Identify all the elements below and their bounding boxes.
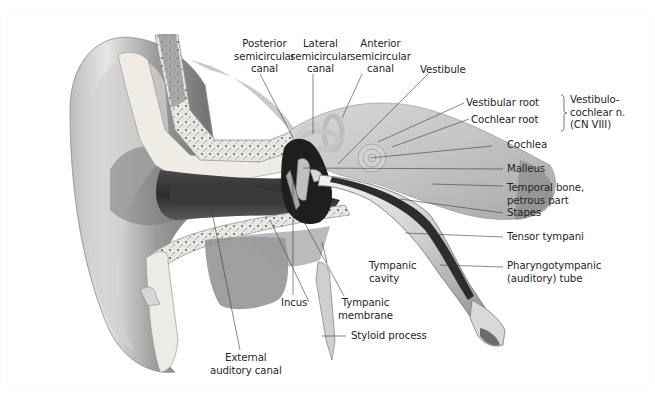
label-malleus: Malleus [507,163,545,176]
label-line: auditory canal [210,365,282,378]
label-external-auditory-canal: External auditory canal [210,352,282,377]
label-incus: Incus [281,297,307,310]
ear-anatomy-figure: Posterior semicircular canal Lateral sem… [0,0,655,397]
label-vestibular-root: Vestibular root [466,97,539,110]
label-stapes: Stapes [507,207,541,220]
label-lateral-semicircular-canal: Lateral semicircular canal [290,38,351,76]
label-vestibule: Vestibule [420,64,466,77]
label-anterior-semicircular-canal: Anterior semicircular canal [350,38,411,76]
label-line: cavity [369,273,416,286]
label-line: canal [290,63,351,76]
styloid-process [316,262,335,360]
label-line: Posterior [234,38,295,51]
label-tympanic-cavity: Tympanic cavity [369,260,416,285]
label-line: semicircular [234,51,295,64]
label-line: cochlear n. [570,107,625,120]
label-line: semicircular [350,51,411,64]
label-line: (CN VIII) [570,119,625,132]
label-posterior-semicircular-canal: Posterior semicircular canal [234,38,295,76]
label-cochlear-root: Cochlear root [471,114,538,127]
label-line: canal [234,63,295,76]
label-line: Lateral [290,38,351,51]
label-cochlea: Cochlea [507,139,547,152]
label-temporal-bone-petrous-part: Temporal bone, petrous part [507,182,584,207]
label-line: Vestibulo- [570,94,625,107]
label-line: External [210,352,282,365]
label-line: Tympanic [369,260,416,273]
label-line: canal [350,63,411,76]
label-styloid-process: Styloid process [351,330,427,343]
label-pharyngotympanic-tube: Pharyngotympanic (auditory) tube [507,260,601,285]
label-tympanic-membrane: Tympanic membrane [338,297,393,322]
brace-icon [561,94,567,132]
label-line: Anterior [350,38,411,51]
label-line: semicircular [290,51,351,64]
label-vestibulocochlear-nerve: Vestibulo- cochlear n. (CN VIII) [570,94,625,132]
label-line: Tympanic [338,297,393,310]
label-line: petrous part [507,195,584,208]
label-line: Pharyngotympanic [507,260,601,273]
label-line: Temporal bone, [507,182,584,195]
label-line: (auditory) tube [507,273,601,286]
label-line: membrane [338,310,393,323]
label-tensor-tympani: Tensor tympani [507,231,584,244]
